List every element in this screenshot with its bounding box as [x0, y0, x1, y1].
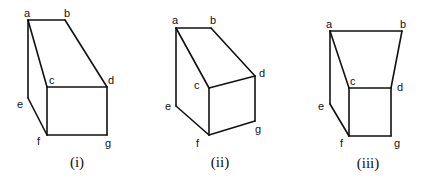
edge-fg — [209, 121, 255, 135]
edge-ef — [28, 98, 47, 135]
vertex-label-a: a — [24, 8, 30, 19]
edge-ef — [176, 106, 209, 135]
edge-ac — [28, 20, 47, 87]
figure-ii-edges — [176, 28, 255, 135]
diagram-canvas: a b c d e f g (i) a b c d e f g (ii) a b… — [0, 0, 425, 183]
figure-caption: (i) — [70, 155, 84, 170]
edge-bd — [211, 28, 255, 76]
vertex-label-f: f — [37, 136, 40, 147]
figure-caption: (ii) — [211, 155, 229, 170]
edge-bd — [391, 31, 402, 88]
vertex-label-c: c — [350, 76, 356, 87]
vertex-label-b: b — [400, 19, 406, 30]
edge-ef — [330, 104, 349, 136]
vertex-label-f: f — [340, 138, 343, 149]
figure-i-edges — [28, 20, 107, 135]
vertex-label-f: f — [196, 138, 199, 149]
vertex-label-e: e — [318, 101, 324, 112]
edge-cd — [209, 76, 255, 88]
vertex-label-a: a — [326, 19, 332, 30]
vertex-label-e: e — [17, 99, 23, 110]
vertex-label-d: d — [108, 75, 114, 86]
vertex-label-e: e — [165, 101, 171, 112]
vertex-label-c: c — [194, 80, 200, 91]
vertex-label-c: c — [49, 75, 55, 86]
vertex-label-g: g — [255, 124, 261, 135]
figure-caption: (iii) — [357, 156, 380, 171]
edge-ac — [330, 31, 349, 88]
vertex-label-d: d — [259, 68, 265, 79]
edge-bd — [65, 20, 107, 87]
vertex-label-d: d — [397, 82, 403, 93]
vertex-label-a: a — [172, 15, 178, 26]
vertex-label-b: b — [64, 8, 70, 19]
edge-ac — [176, 28, 209, 88]
vertex-label-b: b — [210, 15, 216, 26]
vertex-label-g: g — [105, 138, 111, 149]
vertex-label-g: g — [394, 138, 400, 149]
figure-iii-edges — [330, 31, 402, 136]
